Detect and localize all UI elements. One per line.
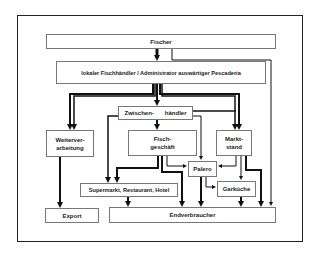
node-lokaler-fischhaendler: lokaler Fischhändler / Administrator aus… — [56, 61, 266, 84]
zwischenhaendler-part2: händler — [165, 109, 187, 117]
zwischenhaendler-part1: Zwischen- — [124, 109, 153, 117]
node-marktstand: Markt- stand — [216, 130, 252, 156]
node-weiterverarbeitung: Weiterver- arbeitung — [46, 130, 94, 157]
node-fischer: Fischer — [46, 34, 276, 49]
node-export: Export — [45, 208, 99, 223]
node-palero: Palero — [188, 161, 217, 177]
node-zwischenhaendler: Zwischen- händler — [118, 106, 193, 120]
node-endverbraucher: Endverbraucher — [109, 207, 276, 223]
node-supermarkt-restaurant-hotel: Supermarkt, Restaurant, Hotel — [80, 183, 178, 197]
node-fischgeschaeft: Fisch- geschäft — [128, 130, 197, 156]
node-garkueche: Garküche — [217, 181, 256, 197]
